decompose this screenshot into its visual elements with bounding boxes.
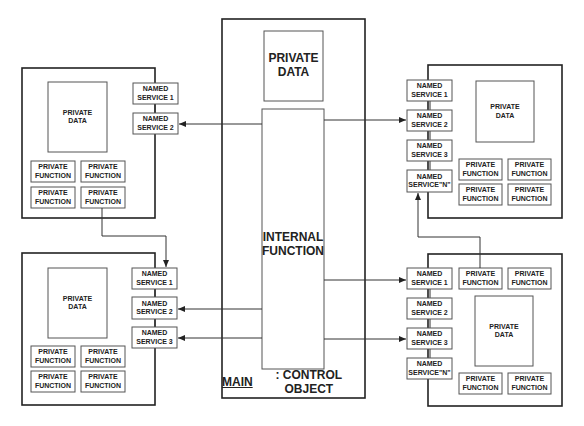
- br-service-3-label[interactable]: NAMED SERVICE 3: [407, 328, 452, 349]
- bl-service-1-label[interactable]: NAMED SERVICE 1: [132, 268, 177, 289]
- br-function-label: PRIVATE FUNCTION: [459, 373, 502, 394]
- tr-function-label: PRIVATE FUNCTION: [459, 159, 502, 180]
- bl-service-2-label[interactable]: NAMED SERVICE 2: [132, 297, 177, 319]
- tl-function-label: PRIVATE FUNCTION: [81, 161, 125, 182]
- br-service-2-label[interactable]: NAMED SERVICE 2: [407, 298, 452, 319]
- internal-function-label: INTERNAL FUNCTION: [262, 225, 324, 265]
- br-function-label: PRIVATE FUNCTION: [508, 268, 551, 289]
- br-function-label: PRIVATE FUNCTION: [508, 373, 551, 394]
- tl-service-1-label[interactable]: NAMED SERVICE 1: [133, 83, 178, 104]
- tl-function-label: PRIVATE FUNCTION: [31, 161, 75, 182]
- br-function-label: PRIVATE FUNCTION: [459, 268, 502, 289]
- tl-private-data-label: PRIVATE DATA: [48, 82, 107, 152]
- br-private-data-label: PRIVATE DATA: [475, 296, 533, 366]
- main-title-suffix: : CONTROL OBJECT: [253, 369, 365, 397]
- main-private-data-label: PRIVATE DATA: [264, 31, 323, 101]
- tr-function-label: PRIVATE FUNCTION: [459, 184, 502, 205]
- bl-function-label: PRIVATE FUNCTION: [31, 346, 75, 367]
- tr-function-label: PRIVATE FUNCTION: [508, 159, 551, 180]
- bl-service-3-label[interactable]: NAMED SERVICE 3: [132, 327, 177, 348]
- tr-service-3-label[interactable]: NAMED SERVICE 3: [407, 140, 452, 161]
- bl-function-label: PRIVATE FUNCTION: [81, 346, 125, 367]
- bl-private-data-label: PRIVATE DATA: [48, 268, 107, 338]
- bl-function-label: PRIVATE FUNCTION: [31, 371, 75, 392]
- tl-function-label: PRIVATE FUNCTION: [31, 187, 75, 208]
- tr-service-2-label[interactable]: NAMED SERVICE 2: [407, 110, 452, 131]
- main-control-object-title: MAIN: CONTROL OBJECT: [222, 374, 365, 392]
- br-service-1-label[interactable]: NAMED SERVICE 1: [407, 268, 452, 289]
- br-service-n-label[interactable]: NAMED SERVICE"N": [407, 358, 452, 379]
- bl-function-label: PRIVATE FUNCTION: [81, 371, 125, 392]
- main-title-prefix: MAIN: [222, 376, 253, 390]
- tr-service-1-label[interactable]: NAMED SERVICE 1: [407, 80, 452, 101]
- tl-service-2-label[interactable]: NAMED SERVICE 2: [133, 113, 178, 134]
- tr-service-n-label[interactable]: NAMED SERVICE"N": [407, 170, 452, 192]
- tl-function-label: PRIVATE FUNCTION: [81, 187, 125, 208]
- tr-private-data-label: PRIVATE DATA: [476, 81, 534, 142]
- tr-function-label: PRIVATE FUNCTION: [508, 184, 551, 205]
